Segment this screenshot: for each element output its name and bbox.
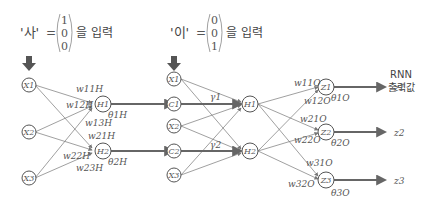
left-weight-labels: w11H w12H w13H w21H w22H w23H θ1H θ2H bbox=[63, 84, 127, 173]
rnn-diagram: '사' = 1 0 0 을 입력 '이' = 0 0 1 을 입력 RNN 출력… bbox=[0, 0, 433, 206]
right-input-nodes: X1 C1 X2 C2 X3 bbox=[167, 72, 181, 182]
left-paren bbox=[207, 14, 210, 52]
svg-text:γ1: γ1 bbox=[210, 92, 221, 102]
svg-text:Z1: Z1 bbox=[320, 83, 332, 92]
svg-text:H2: H2 bbox=[96, 147, 109, 156]
svg-text:θ3O: θ3O bbox=[331, 188, 350, 198]
svg-text:w11O: w11O bbox=[294, 78, 321, 88]
svg-text:θ2H: θ2H bbox=[108, 157, 127, 167]
svg-text:X3: X3 bbox=[23, 174, 35, 183]
left-paren bbox=[57, 14, 60, 52]
input2-label: '이' = 0 0 1 을 입력 bbox=[170, 14, 263, 53]
svg-text:Z2: Z2 bbox=[320, 128, 332, 137]
svg-text:w23H: w23H bbox=[76, 163, 103, 173]
svg-text:θ1O: θ1O bbox=[331, 93, 350, 103]
svg-text:X1: X1 bbox=[168, 75, 180, 84]
svg-text:H1: H1 bbox=[243, 100, 256, 109]
down-arrow-icon bbox=[167, 56, 181, 71]
vector-value: 0 bbox=[211, 27, 218, 40]
right-paren bbox=[219, 14, 222, 52]
svg-text:w22O: w22O bbox=[294, 135, 321, 145]
svg-text:γ2: γ2 bbox=[210, 140, 221, 150]
vector-value: 0 bbox=[211, 14, 218, 27]
vector-value: 1 bbox=[61, 14, 68, 27]
vector-value: 0 bbox=[61, 27, 68, 40]
svg-text:X2: X2 bbox=[168, 122, 180, 131]
vector-value: 0 bbox=[61, 40, 68, 53]
output-z3: z3 bbox=[393, 176, 405, 186]
svg-text:w12O: w12O bbox=[304, 96, 331, 106]
svg-text:w22H: w22H bbox=[63, 151, 90, 161]
equals-sign: = bbox=[196, 26, 206, 40]
input1-char: '사' bbox=[20, 25, 39, 40]
input2-char: '이' bbox=[170, 25, 189, 40]
vector-value: 1 bbox=[211, 40, 218, 53]
svg-text:w12H: w12H bbox=[66, 100, 93, 110]
svg-text:Z3: Z3 bbox=[320, 176, 332, 185]
svg-text:w31O: w31O bbox=[306, 158, 333, 168]
output-z1: z1 bbox=[393, 83, 404, 93]
svg-text:w21H: w21H bbox=[88, 131, 115, 141]
svg-text:C2: C2 bbox=[168, 147, 179, 156]
equals-sign: = bbox=[46, 26, 56, 40]
svg-text:θ1H: θ1H bbox=[108, 110, 127, 120]
svg-text:w11H: w11H bbox=[76, 84, 103, 94]
svg-text:w21O: w21O bbox=[300, 114, 327, 124]
svg-text:X3: X3 bbox=[168, 171, 180, 180]
svg-text:θ2O: θ2O bbox=[331, 138, 350, 148]
down-arrow-icon bbox=[22, 56, 36, 71]
output-title-rnn: RNN bbox=[390, 69, 412, 80]
svg-text:w32O: w32O bbox=[288, 179, 315, 189]
input2-suffix: 을 입력 bbox=[226, 26, 263, 40]
svg-text:C1: C1 bbox=[168, 100, 179, 109]
svg-text:H2: H2 bbox=[243, 147, 256, 156]
svg-text:X2: X2 bbox=[23, 128, 35, 137]
right-paren bbox=[69, 14, 72, 52]
left-x-nodes: X1 X2 X3 bbox=[22, 78, 36, 185]
svg-text:X1: X1 bbox=[23, 81, 35, 90]
input1-label: '사' = 1 0 0 을 입력 bbox=[20, 14, 113, 53]
right-h-nodes: H1 H2 bbox=[242, 96, 258, 159]
input1-suffix: 을 입력 bbox=[76, 26, 113, 40]
svg-text:H1: H1 bbox=[96, 100, 109, 109]
output-z2: z2 bbox=[393, 128, 405, 138]
